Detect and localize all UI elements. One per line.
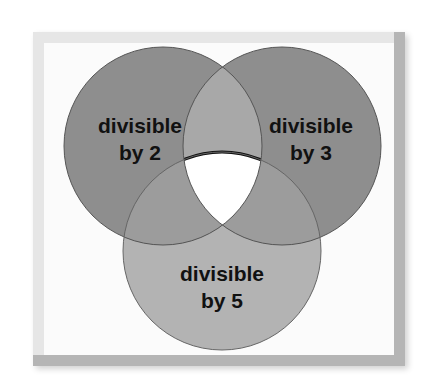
set-by-5-label-line2: by 5	[201, 289, 243, 312]
venn-diagram: divisible by 2 divisible by 3 divisible …	[0, 0, 438, 391]
set-by-2-label-line2: by 2	[119, 141, 161, 164]
set-by-2-label-line1: divisible	[98, 114, 182, 137]
set-by-3-label-line1: divisible	[269, 114, 353, 137]
set-by-5-label-line1: divisible	[180, 262, 264, 285]
set-by-3-label-line2: by 3	[290, 141, 332, 164]
